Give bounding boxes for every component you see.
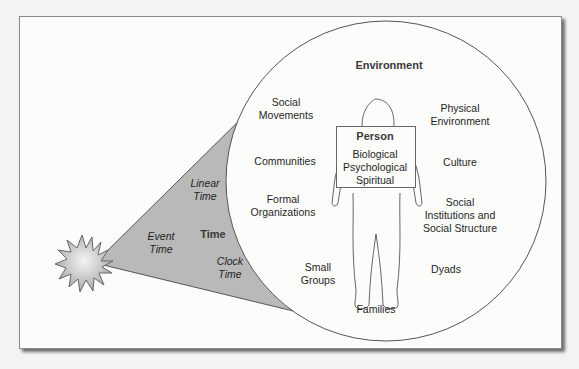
person-dimension-biological: Biological	[353, 148, 398, 161]
label-line: Linear	[190, 177, 219, 190]
label-line: Time	[190, 190, 219, 203]
label-communities: Communities	[254, 155, 315, 168]
label-line: Time	[148, 243, 175, 256]
label-social-movements: Social Movements	[259, 96, 313, 122]
person-dimension-spiritual: Spiritual	[356, 174, 394, 187]
diagram-stage: Environment Person Biological Psychologi…	[0, 0, 579, 369]
label-families: Families	[356, 303, 395, 316]
label-line: Organizations	[251, 206, 316, 219]
label-formal-organizations: Formal Organizations	[251, 193, 316, 219]
label-time: Time	[200, 228, 225, 241]
label-line: Social	[259, 96, 313, 109]
label-small-groups: Small Groups	[301, 261, 335, 287]
label-culture: Culture	[443, 156, 477, 169]
label-event-time: Event Time	[148, 230, 175, 256]
environment-title: Environment	[355, 59, 422, 72]
label-clock-time: Clock Time	[217, 255, 243, 281]
label-social-institutions: Social Institutions and Social Structure	[423, 196, 497, 235]
label-line: Movements	[259, 109, 313, 122]
label-line: Clock	[217, 255, 243, 268]
label-line: Formal	[251, 193, 316, 206]
label-line: Institutions and	[423, 209, 497, 222]
label-line: Environment	[431, 115, 490, 128]
label-physical-environment: Physical Environment	[431, 102, 490, 128]
label-line: Event	[148, 230, 175, 243]
label-line: Time	[217, 268, 243, 281]
label-line: Physical	[431, 102, 490, 115]
label-line: Social	[423, 196, 497, 209]
label-linear-time: Linear Time	[190, 177, 219, 203]
label-line: Social Structure	[423, 222, 497, 235]
person-dimension-psychological: Psychological	[343, 161, 407, 174]
label-dyads: Dyads	[431, 263, 461, 276]
person-title: Person	[356, 130, 393, 143]
starburst-icon	[55, 235, 113, 292]
diagram-graphics	[0, 0, 579, 369]
label-line: Groups	[301, 274, 335, 287]
label-line: Small	[301, 261, 335, 274]
